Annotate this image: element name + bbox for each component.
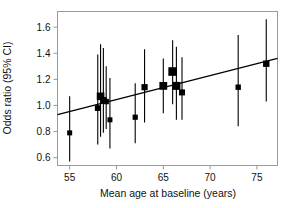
data-point-marker [67,130,72,135]
y-tick-label: 1.2 [37,74,51,85]
x-tick-label: 60 [111,172,123,183]
y-axis-title: Odds ratio (95% CI) [1,42,13,135]
x-tick-label: 75 [251,172,263,183]
odds-ratio-scatter-chart: 0.60.81.01.21.41.6 5560657075 Mean age a… [0,0,298,208]
y-tick-label: 0.8 [37,126,51,137]
data-point-marker [172,82,180,90]
data-point-marker [133,115,138,120]
y-tick-label: 1.0 [37,100,51,111]
x-tick-label: 70 [205,172,217,183]
data-point-marker [95,105,101,111]
x-axis-title: Mean age at baseline (years) [100,187,236,199]
y-tick-label: 1.4 [37,48,51,59]
figure-container: 0.60.81.01.21.41.6 5560657075 Mean age a… [0,0,298,208]
data-point-marker [263,61,269,67]
y-tick-label: 1.6 [37,22,51,33]
data-point-marker [179,89,185,95]
data-point-marker [159,82,167,90]
data-point-marker [141,84,147,90]
x-tick-label: 65 [158,172,170,183]
x-tick-label: 55 [64,172,76,183]
data-point-marker [235,84,240,89]
data-point-marker [168,67,177,76]
data-point-marker [107,117,112,122]
data-point-marker [103,99,108,104]
y-tick-label: 0.6 [37,152,51,163]
